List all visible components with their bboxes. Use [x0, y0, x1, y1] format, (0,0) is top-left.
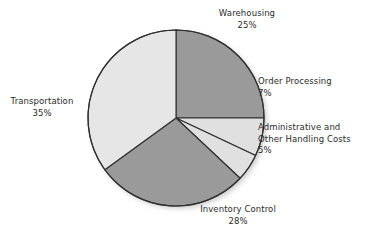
- slice-label-transportation-name: Transportation: [11, 96, 74, 106]
- slice-label-transportation: Transportation 35%: [2, 96, 82, 119]
- slice-label-order-processing: Order Processing 7%: [258, 76, 368, 99]
- slice-label-order-processing-name: Order Processing: [258, 76, 332, 86]
- slice-label-administrative-line2: Other Handling Costs: [258, 134, 371, 146]
- pie-slice-warehousing[interactable]: [176, 30, 264, 118]
- slice-label-administrative: Administrative and Other Handling Costs …: [258, 122, 371, 157]
- slice-label-warehousing-value: 25%: [192, 20, 302, 32]
- slice-label-order-processing-value: 7%: [258, 88, 368, 100]
- slice-label-warehousing: Warehousing 25%: [192, 8, 302, 31]
- slice-label-inventory-control-name: Inventory Control: [200, 204, 276, 214]
- slice-label-inventory-control: Inventory Control 28%: [178, 204, 298, 227]
- pie-chart: Warehousing 25% Order Processing 7% Admi…: [0, 0, 371, 242]
- slice-label-transportation-value: 35%: [2, 108, 82, 120]
- slice-label-administrative-value: 5%: [258, 145, 371, 157]
- slice-label-warehousing-name: Warehousing: [219, 8, 275, 18]
- slice-label-inventory-control-value: 28%: [178, 216, 298, 228]
- slice-label-administrative-line1: Administrative and: [258, 122, 340, 132]
